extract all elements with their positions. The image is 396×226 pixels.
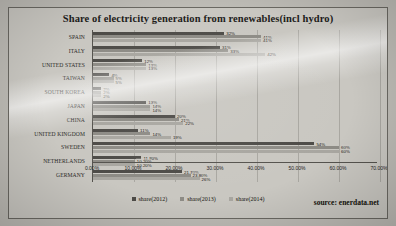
bar: [93, 150, 339, 153]
bar-value-label: 5%: [115, 79, 122, 84]
bar: [93, 35, 261, 38]
x-axis: 0.00%10.00%20.00%30.00%40.00%50.00%60.00…: [92, 162, 377, 177]
category-label: GERMANY: [56, 172, 85, 178]
bar: [93, 77, 114, 80]
bar-value-label: 13%: [148, 66, 158, 71]
legend-item[interactable]: share(2012): [132, 196, 168, 202]
legend-item[interactable]: share(2013): [180, 196, 216, 202]
bar: [93, 46, 220, 49]
bar-value-label: 60%: [341, 149, 351, 154]
x-tick-label: 60.00%: [330, 165, 347, 171]
category-label: CHINA: [67, 117, 85, 123]
bar-value-label: 41%: [263, 38, 273, 43]
bar: [93, 80, 114, 83]
gridline: [298, 30, 299, 182]
bar: [93, 39, 261, 42]
bar: [93, 32, 224, 35]
x-tick-label: 40.00%: [248, 165, 265, 171]
bar-value-label: 2%: [103, 93, 110, 98]
category-label: SWEDEN: [61, 144, 85, 150]
x-tick-label: 20.00%: [166, 165, 183, 171]
legend-swatch-icon: [180, 197, 184, 201]
x-tick-label: 70.00%: [371, 165, 388, 171]
bar-value-label: 22%: [185, 121, 195, 126]
legend-swatch-icon: [229, 197, 233, 201]
bar: [93, 177, 200, 180]
category-label: ITALY: [69, 48, 85, 54]
x-tick-label: 0.00%: [85, 165, 99, 171]
category-axis: SPAINITALYUNITED STATESTAIWANSOUTH KOREA…: [9, 30, 89, 182]
category-label: UNITED KINGDOM: [34, 131, 85, 137]
bar: [93, 67, 146, 70]
bar: [93, 91, 101, 94]
bar-value-label: 14%: [152, 107, 162, 112]
bar: [93, 108, 150, 111]
bar: [93, 59, 142, 62]
bar: [93, 118, 179, 121]
bar: [93, 53, 265, 56]
bar: [93, 129, 138, 132]
bar: [93, 146, 339, 149]
source-note: source: enerdata.net: [314, 198, 379, 207]
legend-label: share(2013): [187, 196, 216, 202]
category-label: TAIWAN: [63, 75, 85, 81]
legend-label: share(2012): [139, 196, 168, 202]
gridline: [380, 30, 381, 182]
bar: [93, 87, 101, 90]
bar: [93, 132, 150, 135]
bar: [93, 63, 146, 66]
bar: [93, 73, 109, 76]
category-label: SPAIN: [69, 34, 85, 40]
legend-swatch-icon: [132, 197, 136, 201]
category-label: JAPAN: [68, 103, 85, 109]
x-tick-label: 50.00%: [289, 165, 306, 171]
chart-frame: Share of electricity generation from ren…: [8, 7, 388, 219]
category-label: UNITED STATES: [42, 62, 85, 68]
bar: [93, 101, 146, 104]
bar-value-label: 19%: [172, 135, 182, 140]
bar-value-label: 42%: [267, 52, 277, 57]
screenshot-root: Share of electricity generation from ren…: [0, 0, 396, 226]
bar: [93, 122, 183, 125]
bar: [93, 105, 150, 108]
x-tick-label: 30.00%: [207, 165, 224, 171]
bar: [93, 49, 228, 52]
chart-title: Share of electricity generation from ren…: [9, 13, 387, 24]
bar: [93, 142, 314, 145]
bar: [93, 115, 175, 118]
plot-area: 32%41%41%31%33%42%12%13%13%4%5%5%2%2%2%1…: [92, 30, 379, 182]
bar: [93, 136, 171, 139]
category-label: SOUTH KOREA: [45, 89, 85, 95]
legend-item[interactable]: share(2014): [229, 196, 265, 202]
category-label: NETHERLANDS: [43, 158, 85, 164]
bar: [93, 156, 141, 159]
legend-label: share(2014): [236, 196, 265, 202]
bar: [93, 94, 101, 97]
x-tick-label: 10.00%: [125, 165, 142, 171]
gridline: [339, 30, 340, 182]
